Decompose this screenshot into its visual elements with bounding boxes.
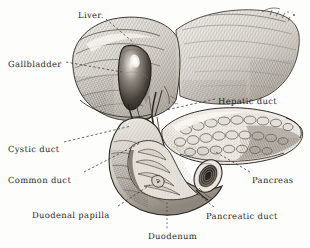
label-gallbladder: Gallbladder — [8, 60, 62, 68]
label-cystic-duct: Cystic duct — [8, 145, 60, 153]
label-liver: Liver. — [78, 11, 104, 19]
label-pancreas: Pancreas — [252, 176, 293, 184]
label-duodenal-papilla: Duodenal papilla — [32, 211, 110, 219]
label-hepatic-duct: Hepatic duct — [218, 97, 277, 105]
label-common-duct: Common duct — [8, 176, 71, 184]
anatomy-figure: Liver. Gallbladder Hepatic duct Cystic d… — [0, 0, 310, 248]
label-pancreatic-duct: Pancreatic duct — [206, 212, 278, 220]
label-duodenum: Duodenum — [148, 232, 197, 240]
duodenal-papilla-structure — [152, 176, 164, 188]
